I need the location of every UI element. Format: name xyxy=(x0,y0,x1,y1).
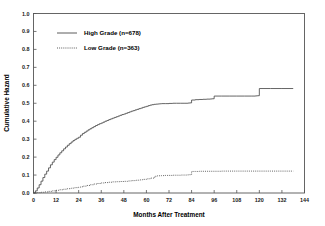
x-tick-label: 144 xyxy=(300,197,309,203)
y-tick-label: 0.3 xyxy=(22,136,30,142)
x-tick-label: 120 xyxy=(255,197,264,203)
legend-label: Low Grade (n=363) xyxy=(84,44,140,51)
y-tick-label: 1.0 xyxy=(22,11,30,17)
y-tick-label: 0.7 xyxy=(22,64,30,70)
cumulative-hazard-chart: 0.00.10.20.30.40.50.60.70.80.91.0 012243… xyxy=(0,0,325,226)
series-low-grade xyxy=(34,171,294,193)
x-tick-label: 48 xyxy=(121,197,127,203)
y-tick-label: 0.5 xyxy=(22,100,30,106)
x-tick-label: 60 xyxy=(143,197,149,203)
figure-container: 0.00.10.20.30.40.50.60.70.80.91.0 012243… xyxy=(0,0,325,226)
data-series-group xyxy=(34,89,294,193)
x-tick-label: 12 xyxy=(53,197,59,203)
y-tick-label: 0.2 xyxy=(22,154,30,160)
y-tick-label: 0.8 xyxy=(22,46,30,52)
y-tick-label: 0.0 xyxy=(22,190,30,196)
y-tick-label: 0.6 xyxy=(22,82,30,88)
series-high-grade xyxy=(34,89,294,193)
x-axis-title: Months After Treatment xyxy=(133,211,205,218)
x-tick-label: 0 xyxy=(32,197,35,203)
x-tick-label: 108 xyxy=(232,197,241,203)
x-tick-label: 132 xyxy=(277,197,286,203)
legend-label: High Grade (n=678) xyxy=(84,29,141,36)
x-tick-label: 96 xyxy=(211,197,217,203)
y-tick-label: 0.4 xyxy=(22,118,30,124)
y-tick-label: 0.9 xyxy=(22,28,30,34)
y-axis-ticks: 0.00.10.20.30.40.50.60.70.80.91.0 xyxy=(22,11,37,197)
x-tick-label: 36 xyxy=(98,197,104,203)
y-tick-label: 0.1 xyxy=(22,172,30,178)
x-axis-ticks: 01224364860728496108120132144 xyxy=(32,190,309,203)
x-tick-label: 72 xyxy=(166,197,172,203)
y-axis-title: Cumulative Hazard xyxy=(3,74,10,132)
x-tick-label: 84 xyxy=(189,197,195,203)
chart-legend: High Grade (n=678)Low Grade (n=363) xyxy=(57,29,141,51)
x-tick-label: 24 xyxy=(76,197,82,203)
